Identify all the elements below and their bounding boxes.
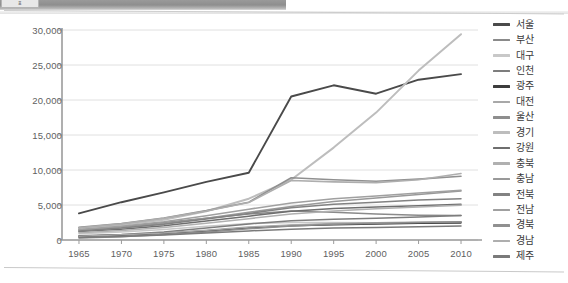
line-chart: 05,00010,00015,00020,00025,00030,000 196… [0,14,568,267]
legend-label: 전북 [516,190,534,200]
legend-label: 전남 [516,205,534,215]
legend-item-0[interactable]: 서울 [493,17,568,32]
legend-swatch-icon [493,255,510,258]
x-tick-label: 1975 [153,248,175,259]
legend-label: 경북 [516,220,534,230]
legend-item-14[interactable]: 경남 [493,233,568,248]
x-tick-label: 2005 [408,248,430,259]
legend-swatch-icon [493,70,510,73]
x-axis-labels: 1965197019751980198519901995200020052010 [0,14,490,267]
legend-item-1[interactable]: 부산 [493,32,568,47]
legend-label: 대전 [516,97,534,107]
legend-swatch-icon [493,131,510,134]
legend-swatch-icon [493,162,510,165]
legend-label: 충북 [516,159,534,169]
legend-swatch-icon [493,209,510,212]
legend-label: 대구 [516,51,534,61]
x-tick-label: 1985 [238,248,260,259]
legend-swatch-icon [493,147,510,150]
legend-item-6[interactable]: 울산 [493,110,568,125]
x-tick-label: 1965 [68,248,90,259]
legend-swatch-icon [493,178,510,181]
legend-item-7[interactable]: 경기 [493,125,568,140]
legend-swatch-icon [493,85,510,88]
legend-item-12[interactable]: 전남 [493,202,568,217]
legend-swatch-icon [493,101,510,104]
legend-swatch-icon [493,23,510,26]
legend-label: 인천 [516,66,534,76]
chart-legend: 서울부산대구인천광주대전울산경기강원충북충남전북전남경북경남제주 [493,17,568,264]
legend-label: 부산 [516,35,534,45]
legend-item-15[interactable]: 제주 [493,249,568,264]
legend-item-2[interactable]: 대구 [493,48,568,63]
x-tick-label: 1990 [280,248,302,259]
legend-label: 광주 [516,81,534,91]
x-tick-label: 2010 [450,248,472,259]
legend-item-13[interactable]: 경북 [493,218,568,233]
toolbar-tab[interactable]: 표 [1,0,39,8]
legend-item-8[interactable]: 강원 [493,141,568,156]
legend-item-9[interactable]: 충북 [493,156,568,171]
legend-swatch-icon [493,193,510,196]
legend-item-11[interactable]: 전북 [493,187,568,202]
legend-item-3[interactable]: 인천 [493,63,568,78]
legend-label: 강원 [516,143,534,153]
legend-label: 경기 [516,128,534,138]
bottom-divider [4,267,564,272]
legend-swatch-icon [493,39,510,42]
legend-swatch-icon [493,54,510,57]
legend-label: 충남 [516,174,534,184]
legend-label: 경남 [516,236,534,246]
x-tick-label: 1970 [111,248,133,259]
toolbar-strip: 표 [0,0,286,10]
x-tick-label: 1995 [323,248,345,259]
legend-item-5[interactable]: 대전 [493,94,568,109]
legend-label: 서울 [516,20,534,30]
legend-item-4[interactable]: 광주 [493,79,568,94]
legend-swatch-icon [493,116,510,119]
x-tick-label: 1980 [196,248,218,259]
legend-label: 제주 [516,251,534,261]
legend-swatch-icon [493,224,510,227]
legend-item-10[interactable]: 충남 [493,171,568,186]
x-tick-label: 2000 [365,248,387,259]
legend-label: 울산 [516,112,534,122]
legend-swatch-icon [493,240,510,243]
